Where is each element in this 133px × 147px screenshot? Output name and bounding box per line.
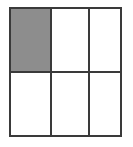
grid-cell-row0-col1[interactable] [52, 9, 88, 71]
grid-cell-row1-col0[interactable] [11, 73, 50, 135]
grid-cell-row1-col1[interactable] [52, 73, 88, 135]
grid-outer-border [9, 7, 122, 137]
grid-horizontal-divider-1 [11, 71, 120, 73]
grid-cell-row1-col2[interactable] [90, 73, 120, 135]
grid-cell-row0-col2[interactable] [90, 9, 120, 71]
figure-root [0, 0, 133, 147]
grid-cell-layer [11, 9, 120, 135]
grid-cell-row0-col0-shaded[interactable] [11, 9, 50, 71]
